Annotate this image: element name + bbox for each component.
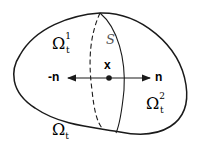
label-s: S	[106, 32, 115, 47]
label-x: x	[104, 58, 111, 72]
point-x	[106, 75, 112, 81]
surface-back	[90, 13, 102, 128]
label-omega-t: Ωt	[52, 120, 69, 141]
surface-front	[100, 13, 124, 133]
label-omega-1: Ω1t	[52, 34, 70, 55]
label-omega-2: Ω2t	[146, 94, 164, 115]
domain-diagram	[0, 0, 199, 147]
label-pos-n: n	[155, 70, 162, 84]
label-neg-n: -n	[48, 70, 59, 84]
